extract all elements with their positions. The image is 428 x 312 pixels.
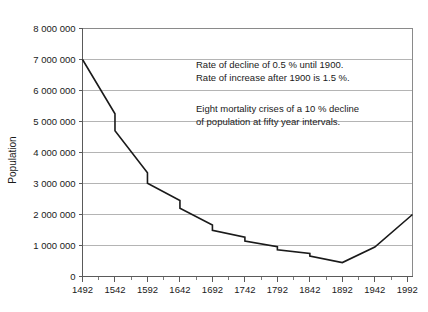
x-tick-label: 1792 <box>267 284 288 295</box>
y-axis-title: Population <box>7 136 18 183</box>
y-tick-label: 1 000 000 <box>33 240 75 251</box>
y-tick-label: 4 000 000 <box>33 147 75 158</box>
annotation-line: of population at fifty year intervals. <box>196 116 340 127</box>
annotation-line: Eight mortality crises of a 10 % decline <box>196 103 359 114</box>
annotation-line: Rate of decline of 0.5 % until 1900. <box>196 59 343 70</box>
y-tick-label: 8 000 000 <box>33 23 75 34</box>
x-tick-label: 1942 <box>364 284 385 295</box>
x-tick-label: 1842 <box>299 284 320 295</box>
population-decline-chart: 01 000 0002 000 0003 000 0004 000 0005 0… <box>0 0 428 312</box>
x-tick-label: 1692 <box>202 284 223 295</box>
population-series <box>83 60 413 263</box>
x-tick-label: 1542 <box>104 284 125 295</box>
population-line <box>83 60 413 263</box>
y-tick-label: 5 000 000 <box>33 116 75 127</box>
x-tick-label: 1642 <box>169 284 190 295</box>
y-tick-label: 2 000 000 <box>33 209 75 220</box>
x-tick-label: 1742 <box>234 284 255 295</box>
y-axis-ticks: 01 000 0002 000 0003 000 0004 000 0005 0… <box>33 23 82 282</box>
annotation-line: Rate of increase after 1900 is 1.5 %. <box>196 72 350 83</box>
x-axis-ticks: 1492154215921642169217421792184218921942… <box>72 277 418 295</box>
chart-canvas: 01 000 0002 000 0003 000 0004 000 0005 0… <box>0 0 428 312</box>
x-tick-label: 1892 <box>332 284 353 295</box>
y-tick-label: 6 000 000 <box>33 85 75 96</box>
x-tick-label: 1492 <box>72 284 93 295</box>
y-tick-label: 7 000 000 <box>33 54 75 65</box>
y-tick-label: 3 000 000 <box>33 178 75 189</box>
x-tick-label: 1592 <box>137 284 158 295</box>
y-tick-label: 0 <box>70 271 75 282</box>
chart-annotations: Rate of decline of 0.5 % until 1900.Rate… <box>196 59 359 127</box>
x-tick-label: 1992 <box>397 284 418 295</box>
